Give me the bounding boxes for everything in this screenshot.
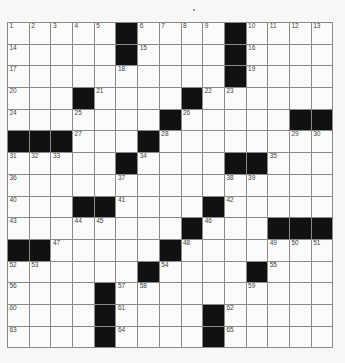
grid-cell[interactable]: [51, 88, 73, 110]
grid-cell[interactable]: 23: [225, 88, 247, 110]
grid-cell[interactable]: 49: [268, 240, 290, 262]
grid-cell[interactable]: 38: [225, 175, 247, 197]
grid-cell[interactable]: 52: [8, 262, 30, 284]
grid-cell[interactable]: [225, 262, 247, 284]
grid-cell[interactable]: 44: [73, 218, 95, 240]
grid-cell[interactable]: 62: [225, 305, 247, 327]
grid-cell[interactable]: [30, 45, 52, 67]
grid-cell[interactable]: 11: [268, 23, 290, 45]
grid-cell[interactable]: [268, 283, 290, 305]
grid-cell[interactable]: 56: [8, 283, 30, 305]
grid-cell[interactable]: [203, 175, 225, 197]
grid-cell[interactable]: [182, 262, 204, 284]
grid-cell[interactable]: [138, 197, 160, 219]
grid-cell[interactable]: 55: [268, 262, 290, 284]
grid-cell[interactable]: [182, 153, 204, 175]
grid-cell[interactable]: [290, 305, 312, 327]
grid-cell[interactable]: [290, 283, 312, 305]
grid-cell[interactable]: [182, 327, 204, 349]
grid-cell[interactable]: [51, 66, 73, 88]
grid-cell[interactable]: [51, 283, 73, 305]
grid-cell[interactable]: [312, 153, 334, 175]
grid-cell[interactable]: [247, 240, 269, 262]
grid-cell[interactable]: 51: [312, 240, 334, 262]
grid-cell[interactable]: [247, 327, 269, 349]
grid-cell[interactable]: [95, 45, 117, 67]
grid-cell[interactable]: 10: [247, 23, 269, 45]
grid-cell[interactable]: [203, 262, 225, 284]
grid-cell[interactable]: [51, 327, 73, 349]
grid-cell[interactable]: 34: [138, 153, 160, 175]
grid-cell[interactable]: 2: [30, 23, 52, 45]
grid-cell[interactable]: 19: [247, 66, 269, 88]
grid-cell[interactable]: 54: [160, 262, 182, 284]
grid-cell[interactable]: [247, 197, 269, 219]
grid-cell[interactable]: 37: [116, 175, 138, 197]
grid-cell[interactable]: [268, 88, 290, 110]
grid-cell[interactable]: [30, 305, 52, 327]
grid-cell[interactable]: [312, 66, 334, 88]
grid-cell[interactable]: 31: [8, 153, 30, 175]
grid-cell[interactable]: [73, 45, 95, 67]
grid-cell[interactable]: [30, 175, 52, 197]
grid-cell[interactable]: 32: [30, 153, 52, 175]
grid-cell[interactable]: 17: [8, 66, 30, 88]
grid-cell[interactable]: 35: [268, 153, 290, 175]
grid-cell[interactable]: [225, 110, 247, 132]
grid-cell[interactable]: 30: [312, 131, 334, 153]
grid-cell[interactable]: [116, 218, 138, 240]
grid-cell[interactable]: [138, 305, 160, 327]
grid-cell[interactable]: 13: [312, 23, 334, 45]
grid-cell[interactable]: [51, 262, 73, 284]
grid-cell[interactable]: 7: [160, 23, 182, 45]
grid-cell[interactable]: 24: [8, 110, 30, 132]
grid-cell[interactable]: 14: [8, 45, 30, 67]
grid-cell[interactable]: 46: [203, 218, 225, 240]
grid-cell[interactable]: [290, 175, 312, 197]
grid-cell[interactable]: [312, 197, 334, 219]
grid-cell[interactable]: 50: [290, 240, 312, 262]
grid-cell[interactable]: 33: [51, 153, 73, 175]
grid-cell[interactable]: 4: [73, 23, 95, 45]
grid-cell[interactable]: [247, 131, 269, 153]
grid-cell[interactable]: 61: [116, 305, 138, 327]
grid-cell[interactable]: 18: [116, 66, 138, 88]
grid-cell[interactable]: 1: [8, 23, 30, 45]
grid-cell[interactable]: [73, 153, 95, 175]
grid-cell[interactable]: [160, 66, 182, 88]
grid-cell[interactable]: [225, 240, 247, 262]
grid-cell[interactable]: [312, 88, 334, 110]
grid-cell[interactable]: [290, 45, 312, 67]
grid-cell[interactable]: 5: [95, 23, 117, 45]
grid-cell[interactable]: [312, 305, 334, 327]
grid-cell[interactable]: 41: [116, 197, 138, 219]
grid-cell[interactable]: 36: [8, 175, 30, 197]
grid-cell[interactable]: [138, 110, 160, 132]
grid-cell[interactable]: 65: [225, 327, 247, 349]
grid-cell[interactable]: [51, 218, 73, 240]
grid-cell[interactable]: [268, 110, 290, 132]
grid-cell[interactable]: 9: [203, 23, 225, 45]
grid-cell[interactable]: [95, 66, 117, 88]
grid-cell[interactable]: [73, 262, 95, 284]
grid-cell[interactable]: [30, 88, 52, 110]
grid-cell[interactable]: [182, 283, 204, 305]
grid-cell[interactable]: [160, 88, 182, 110]
grid-cell[interactable]: [203, 153, 225, 175]
grid-cell[interactable]: [160, 197, 182, 219]
grid-cell[interactable]: 48: [182, 240, 204, 262]
grid-cell[interactable]: [268, 327, 290, 349]
grid-cell[interactable]: 58: [138, 283, 160, 305]
grid-cell[interactable]: [116, 262, 138, 284]
grid-cell[interactable]: 22: [203, 88, 225, 110]
grid-cell[interactable]: [138, 88, 160, 110]
grid-cell[interactable]: 6: [138, 23, 160, 45]
grid-cell[interactable]: [247, 305, 269, 327]
grid-cell[interactable]: [290, 327, 312, 349]
grid-cell[interactable]: 45: [95, 218, 117, 240]
grid-cell[interactable]: [51, 197, 73, 219]
grid-cell[interactable]: 20: [8, 88, 30, 110]
grid-cell[interactable]: 40: [8, 197, 30, 219]
grid-cell[interactable]: 39: [247, 175, 269, 197]
grid-cell[interactable]: [290, 153, 312, 175]
